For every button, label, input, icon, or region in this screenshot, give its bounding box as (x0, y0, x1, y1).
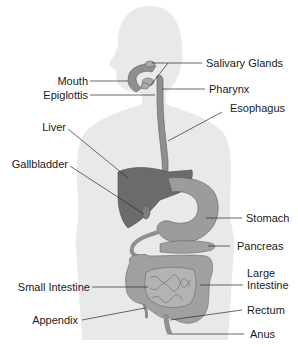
label-mouth: Mouth (44, 75, 88, 87)
label-anus: Anus (250, 328, 275, 340)
label-salivary-glands: Salivary Glands (206, 57, 283, 69)
label-pharynx: Pharynx (209, 83, 249, 95)
gallbladder-organ (142, 205, 150, 219)
label-large-intestine-line2: Intestine (247, 279, 289, 291)
label-gallbladder: Gallbladder (2, 158, 68, 170)
label-rectum: Rectum (247, 304, 285, 316)
label-liver: Liver (20, 121, 66, 133)
label-epiglottis: Epiglottis (30, 89, 88, 101)
small-intestine-organ (145, 267, 196, 307)
label-appendix: Appendix (20, 314, 78, 326)
pancreas-organ (160, 241, 215, 254)
label-stomach: Stomach (246, 212, 289, 224)
label-large-intestine: Large Intestine (247, 267, 289, 291)
label-esophagus: Esophagus (230, 102, 285, 114)
label-large-intestine-line1: Large (247, 267, 289, 279)
digestive-system-diagram (0, 0, 298, 347)
label-small-intestine: Small Intestine (2, 281, 90, 293)
label-pancreas: Pancreas (237, 240, 283, 252)
